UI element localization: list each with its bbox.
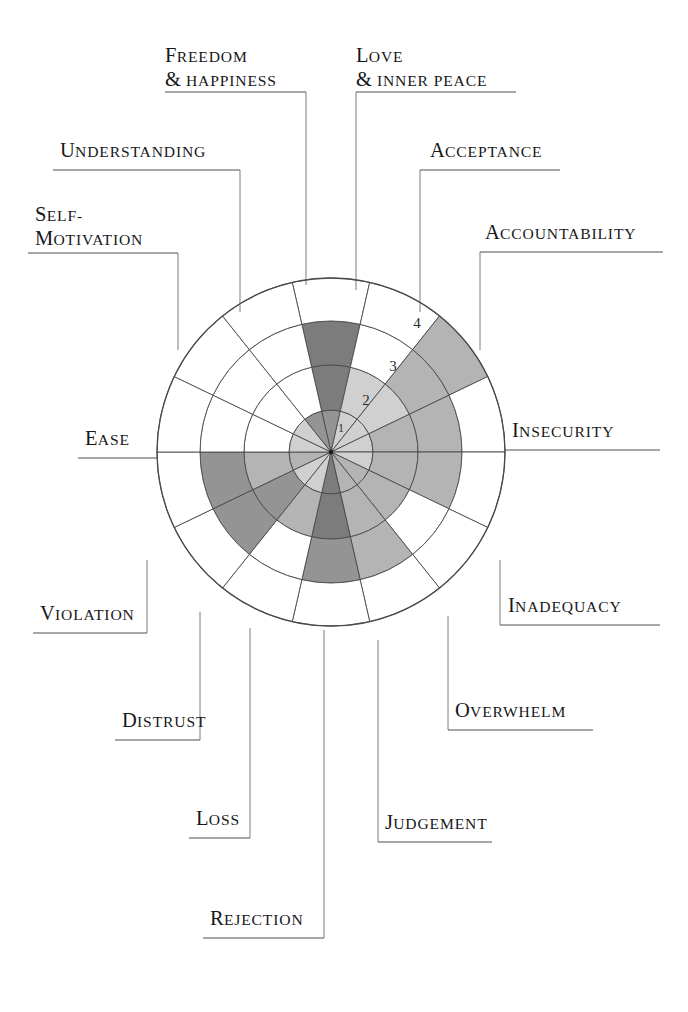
label-smallcaps: NADEQUACY: [515, 598, 621, 615]
wheel-label-line-1: OVERWHELM: [455, 700, 566, 721]
wheel-label-acceptance[interactable]: ACCEPTANCE: [430, 140, 543, 161]
wheel-label-loss[interactable]: LOSS: [196, 808, 240, 829]
wheel-label-overwhelm[interactable]: OVERWHELM: [455, 700, 566, 721]
label-initial-cap: S: [35, 203, 47, 225]
wheel-label-line-1: ACCOUNTABILITY: [485, 222, 636, 243]
wheel-label-judgement[interactable]: JUDGEMENT: [385, 812, 488, 833]
label-smallcaps: OSS: [209, 811, 240, 828]
wheel-label-line-2: MOTIVATION: [35, 227, 143, 251]
label-smallcaps: INNER PEACE: [372, 72, 487, 89]
wheel-label-line-1: REJECTION: [210, 908, 304, 929]
label-smallcaps: CCOUNTABILITY: [500, 225, 636, 242]
label-initial-cap: L: [196, 807, 209, 829]
wheel-segment[interactable]: [302, 321, 360, 367]
wheel-label-distrust[interactable]: DISTRUST: [122, 710, 206, 731]
label-smallcaps: ELF-: [47, 207, 83, 224]
wheel-label-line-1: LOSS: [196, 808, 240, 829]
ring-tick-label: 3: [389, 358, 397, 374]
label-smallcaps: NDERSTANDING: [75, 143, 206, 160]
wheel-label-line-1: INADEQUACY: [508, 595, 622, 616]
label-smallcaps: OTIVATION: [53, 231, 143, 248]
wheel-label-line-1: VIOLATION: [40, 603, 135, 624]
ring-tick-label: 1: [338, 421, 344, 435]
label-initial-cap: U: [60, 139, 75, 161]
wheel-label-inadequacy[interactable]: INADEQUACY: [508, 595, 622, 616]
label-smallcaps: ISTRUST: [137, 713, 206, 730]
wheel-label-accountability[interactable]: ACCOUNTABILITY: [485, 222, 636, 243]
wheel-label-love-inner-peace[interactable]: LOVE& INNER PEACE: [356, 44, 487, 92]
wheel-label-line-1: INSECURITY: [512, 420, 614, 441]
wheel-label-line-1: FREEDOM: [165, 44, 277, 68]
wheel-label-ease[interactable]: EASE: [85, 428, 130, 449]
wheel-segment[interactable]: [292, 580, 369, 626]
label-initial-cap: A: [430, 139, 445, 161]
label-smallcaps: HAPPINESS: [181, 72, 277, 89]
label-initial-cap: E: [85, 427, 98, 449]
wheel-label-line-1: EASE: [85, 428, 130, 449]
label-initial-cap: V: [40, 602, 55, 624]
label-initial-cap: J: [385, 811, 393, 833]
label-smallcaps: UDGEMENT: [393, 815, 487, 832]
label-smallcaps: REEDOM: [177, 48, 248, 65]
label-initial-cap: &: [165, 68, 181, 90]
label-smallcaps: NSECURITY: [519, 423, 614, 440]
wheel-label-self-motivation[interactable]: SELF-MOTIVATION: [35, 203, 143, 251]
label-initial-cap: L: [356, 44, 369, 66]
wheel-label-understanding[interactable]: UNDERSTANDING: [60, 140, 206, 161]
wheel-segment[interactable]: [302, 537, 360, 583]
wheel-label-line-1: DISTRUST: [122, 710, 206, 731]
wheel-label-line-2: & HAPPINESS: [165, 68, 277, 92]
label-smallcaps: VERWHELM: [470, 703, 566, 720]
label-smallcaps: OVE: [369, 48, 404, 65]
label-initial-cap: &: [356, 68, 372, 90]
wheel-group: 1234: [157, 278, 505, 626]
label-initial-cap: A: [485, 221, 500, 243]
label-smallcaps: ASE: [98, 431, 130, 448]
label-initial-cap: D: [122, 709, 137, 731]
ring-tick-label: 4: [413, 315, 421, 331]
wheel-label-line-1: ACCEPTANCE: [430, 140, 543, 161]
wheel-label-line-1: JUDGEMENT: [385, 812, 488, 833]
wheel-center-dot: [329, 450, 333, 454]
label-initial-cap: F: [165, 44, 177, 66]
wheel-label-freedom-happiness[interactable]: FREEDOM& HAPPINESS: [165, 44, 277, 92]
wheel-segment[interactable]: [292, 278, 369, 324]
wheel-label-rejection[interactable]: REJECTION: [210, 908, 304, 929]
label-initial-cap: R: [210, 907, 224, 929]
label-initial-cap: M: [35, 227, 53, 249]
wheel-label-line-1: SELF-: [35, 203, 143, 227]
label-smallcaps: CCEPTANCE: [445, 143, 542, 160]
ring-tick-label: 2: [362, 392, 370, 408]
wheel-label-line-1: UNDERSTANDING: [60, 140, 206, 161]
label-initial-cap: O: [455, 699, 470, 721]
wheel-label-violation[interactable]: VIOLATION: [40, 603, 135, 624]
wheel-label-line-1: LOVE: [356, 44, 487, 68]
wheel-label-insecurity[interactable]: INSECURITY: [512, 420, 614, 441]
wheel-label-line-2: & INNER PEACE: [356, 68, 487, 92]
label-smallcaps: EJECTION: [224, 911, 304, 928]
label-smallcaps: IOLATION: [55, 606, 135, 623]
